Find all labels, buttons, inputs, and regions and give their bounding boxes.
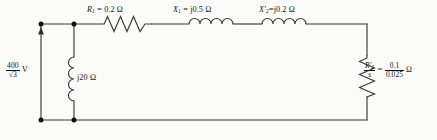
r1-unit: Ω	[117, 5, 123, 14]
rotor-load-resistance-label: R′2 s = 0.1 0.025 Ω	[364, 62, 412, 79]
circuit-diagram: 400 √3 V j20 Ω R1 = 0.2 Ω X1 = j0.5 Ω X′…	[0, 0, 437, 140]
junction-dot	[39, 118, 44, 123]
source-arrow-icon	[38, 27, 44, 35]
junction-dot	[39, 22, 44, 27]
junction-dot	[72, 118, 77, 123]
x2-value: j0.2	[274, 5, 287, 14]
junction-dots	[39, 22, 77, 123]
rotor-reactance-label: X′2=j0.2 Ω	[259, 5, 295, 14]
slip-symbol: s	[364, 71, 375, 79]
magnetizing-value: j20	[77, 73, 88, 82]
load-value-denominator: 0.025	[385, 71, 404, 79]
load-equals: =	[375, 65, 385, 74]
magnetizing-reactance-label: j20 Ω	[77, 73, 96, 82]
inductor-x1-symbol	[189, 19, 233, 25]
magnetizing-unit: Ω	[90, 73, 96, 82]
source-voltage-label: 400 √3 V	[6, 62, 28, 79]
inductor-magnetizing-symbol	[69, 57, 75, 101]
junction-dot	[72, 22, 77, 27]
load-value-fraction: 0.1 0.025	[385, 62, 404, 78]
stator-reactance-label: X1 = j0.5 Ω	[173, 5, 211, 14]
source-unit: V	[20, 65, 28, 74]
x2-unit: Ω	[289, 5, 295, 14]
x1-unit: Ω	[205, 5, 211, 14]
load-symbol-fraction: R′2 s	[364, 62, 375, 79]
inductor-x2-symbol	[262, 19, 306, 25]
load-unit: Ω	[404, 65, 412, 74]
x1-value: j0.5	[190, 5, 203, 14]
stator-resistance-label: R1 = 0.2 Ω	[87, 5, 123, 14]
source-denominator: √3	[6, 71, 20, 79]
resistor-r1-symbol	[101, 17, 152, 32]
r1-value: 0.2	[104, 5, 115, 14]
source-fraction: 400 √3	[6, 62, 20, 79]
r2-subscript: 2	[371, 64, 374, 70]
